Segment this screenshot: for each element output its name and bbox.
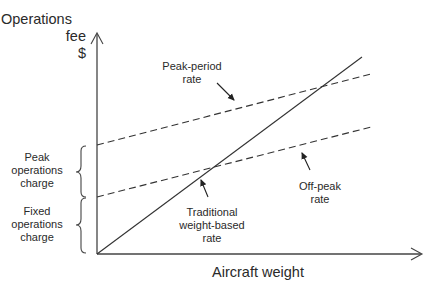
x-axis-label: Aircraft weight <box>190 264 326 281</box>
fixed-charge-line-1: Fixed <box>2 205 72 218</box>
y-axis-label: Operations fee $ <box>0 11 88 62</box>
peak-period-line-1: Peak-period <box>150 60 234 73</box>
traditional-weight-based-rate-label: Traditional weight-based rate <box>174 206 250 245</box>
fixed-charge-brace-icon <box>76 198 86 253</box>
traditional-line-3: rate <box>174 232 250 245</box>
traditional-line-1: Traditional <box>174 206 250 219</box>
off-peak-line-2: rate <box>290 193 350 206</box>
off-peak-callout-arrow-icon <box>302 153 310 170</box>
off-peak-rate-label: Off-peak rate <box>290 180 350 206</box>
fixed-charge-line-3: charge <box>2 231 72 244</box>
peak-charge-brace-icon <box>76 146 86 197</box>
y-axis-label-line-3: $ <box>0 45 88 62</box>
traditional-line-2: weight-based <box>174 219 250 232</box>
peak-charge-line-2: operations <box>2 164 72 177</box>
peak-charge-line-1: Peak <box>2 151 72 164</box>
traditional-callout-arrow-icon <box>201 180 208 197</box>
peak-period-rate-label: Peak-period rate <box>150 60 234 86</box>
x-axis-label-text: Aircraft weight <box>190 264 326 281</box>
peak-period-line-2: rate <box>150 73 234 86</box>
off-peak-line-1: Off-peak <box>290 180 350 193</box>
y-axis-label-line-2: fee <box>0 28 88 45</box>
peak-period-rate-line <box>97 74 371 145</box>
fixed-operations-charge-label: Fixed operations charge <box>2 205 72 244</box>
y-axis-label-line-1: Operations <box>0 11 88 28</box>
peak-charge-line-3: charge <box>2 177 72 190</box>
fixed-charge-line-2: operations <box>2 218 72 231</box>
peak-operations-charge-label: Peak operations charge <box>2 151 72 190</box>
x-axis <box>97 248 422 260</box>
